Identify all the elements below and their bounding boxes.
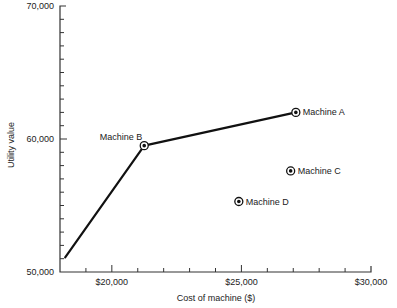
point-machine-d: Machine D [235,197,290,207]
x-tick-label: $20,000 [96,277,129,287]
y-tick-label: 60,000 [26,134,54,144]
y-axis-title: Utility value [6,122,16,168]
point-label: Machine D [246,197,290,207]
marker-dot [289,169,293,173]
point-label: Machine B [100,132,143,142]
axis-ticks [60,19,345,272]
tick-labels: $20,000$25,000$30,00050,00060,00070,000 [26,1,387,287]
utility-cost-chart: $20,000$25,000$30,00050,00060,00070,000 … [0,0,397,308]
point-label: Machine A [303,107,345,117]
point-machine-c: Machine C [287,166,342,176]
y-tick-label: 50,000 [26,267,54,277]
point-machine-b: Machine B [100,132,149,150]
marker-dot [294,111,298,115]
marker-dot [142,144,146,148]
y-tick-label: 70,000 [26,1,54,11]
point-label: Machine C [298,166,342,176]
x-tick-label: $30,000 [355,277,388,287]
x-axis-title: Cost of machine ($) [177,293,256,303]
x-tick-label: $25,000 [225,277,258,287]
point-machine-a: Machine A [292,107,345,117]
marker-dot [237,200,241,204]
